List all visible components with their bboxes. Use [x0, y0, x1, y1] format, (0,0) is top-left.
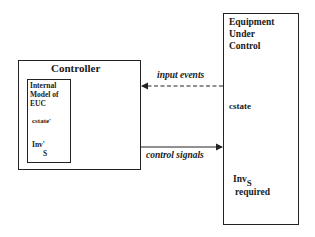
arrows-layer [0, 0, 315, 237]
control-signals-label: control signals [146, 150, 204, 160]
input-events-label: input events [157, 70, 204, 80]
